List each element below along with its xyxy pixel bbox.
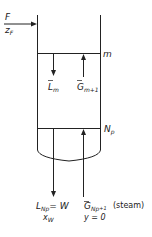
steam-arrow-icon — [81, 129, 86, 135]
column-bottom-head — [38, 150, 101, 161]
stripping-column-diagram: F zF m Lm Gm+1 Np LNp= W xW GNp+1 (steam… — [0, 0, 152, 237]
feed-composition: zF — [4, 25, 14, 36]
bottoms-composition: xW — [42, 213, 55, 223]
feed-stream: F zF — [4, 12, 37, 36]
liquid-m-label: Lm — [48, 82, 59, 93]
liquid-down-arrow-icon — [51, 70, 56, 76]
tray-m-label: m — [103, 49, 112, 59]
bottoms-label: LNp= W — [36, 201, 70, 213]
steam-label: GNp+1 — [84, 201, 107, 213]
vapor-m-label: Gm+1 — [77, 82, 99, 93]
feed-label: F — [5, 12, 11, 22]
feed-arrow-icon — [31, 22, 37, 27]
tray-np-label: Np — [104, 124, 115, 136]
steam-note: (steam) — [113, 201, 144, 210]
steam-composition: y = 0 — [83, 213, 106, 222]
bottoms-arrow-icon — [51, 191, 56, 197]
vapor-up-arrow-icon — [81, 54, 86, 60]
